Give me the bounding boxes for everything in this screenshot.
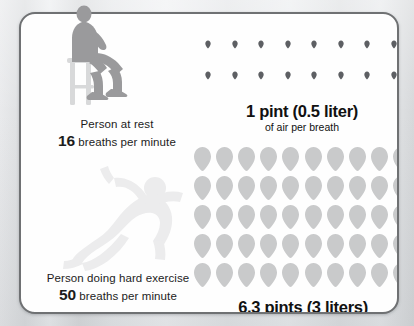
breath-dot-marker [205, 40, 211, 49]
volume-rest-main: 1 pint (0.5 liter) [199, 102, 397, 120]
breath-dot-marker [391, 71, 397, 80]
volume-exercise-main: 6.3 pints (3 liters) [197, 298, 397, 312]
caption-person-exercising: Person doing hard exercise 50 breaths pe… [23, 272, 213, 304]
balloon-marker [348, 262, 367, 289]
balloon-marker [237, 262, 256, 289]
breath-dot-marker [364, 71, 370, 80]
balloon-marker [326, 146, 345, 173]
balloon-marker [304, 262, 323, 289]
balloon-marker [259, 262, 278, 289]
caption-exercise-title: Person doing hard exercise [23, 272, 213, 286]
balloon-marker [215, 233, 234, 260]
balloon-marker [370, 146, 389, 173]
balloon-marker [326, 233, 345, 260]
breath-dot-marker [311, 71, 317, 80]
balloon-marker [281, 175, 300, 202]
balloon-marker [304, 204, 323, 231]
breath-dot-marker [258, 40, 264, 49]
infographic-panel: Person at rest 16 breaths per minute Per… [19, 12, 399, 314]
breath-dot-marker [285, 71, 291, 80]
balloon-marker [326, 262, 345, 289]
balloon-marker [281, 262, 300, 289]
volume-rest-sub: of air per breath [199, 121, 397, 134]
balloon-marker [215, 175, 234, 202]
balloon-marker [259, 175, 278, 202]
caption-rest-title: Person at rest [27, 118, 207, 132]
breath-dot-marker [364, 40, 370, 49]
balloon-marker [348, 146, 367, 173]
breath-dot-marker [258, 71, 264, 80]
balloon-marker [281, 146, 300, 173]
balloon-marker [370, 175, 389, 202]
balloon-marker [370, 262, 389, 289]
balloon-marker [215, 146, 234, 173]
balloon-marker [304, 146, 323, 173]
breath-dot-marker [338, 71, 344, 80]
balloon-marker [237, 175, 256, 202]
balloon-marker [304, 233, 323, 260]
balloon-marker [370, 204, 389, 231]
panel-inner-clip: Person at rest 16 breaths per minute Per… [21, 14, 397, 312]
caption-exercise-units: breaths per minute [76, 290, 177, 302]
balloon-marker [326, 175, 345, 202]
caption-person-at-rest: Person at rest 16 breaths per minute [27, 118, 207, 150]
balloon-marker [392, 204, 397, 231]
caption-rest-units: breaths per minute [75, 136, 176, 148]
breath-dot-marker [232, 71, 238, 80]
balloon-marker [348, 204, 367, 231]
breath-dot-marker [311, 40, 317, 49]
balloon-marker [392, 262, 397, 289]
balloon-marker [348, 233, 367, 260]
breath-dot-marker [391, 40, 397, 49]
balloon-marker [259, 204, 278, 231]
balloon-marker [193, 233, 212, 260]
balloon-marker [215, 204, 234, 231]
balloon-marker [215, 262, 234, 289]
balloon-marker [326, 204, 345, 231]
balloon-marker [259, 146, 278, 173]
breath-dot-marker [232, 40, 238, 49]
dot-grid-rest [195, 40, 397, 80]
balloon-marker [237, 233, 256, 260]
balloon-grid-exercise [191, 146, 397, 289]
balloon-marker [304, 175, 323, 202]
volume-label-rest: 1 pint (0.5 liter) of air per breath [199, 102, 397, 134]
caption-rest-rate: 16 breaths per minute [27, 132, 207, 150]
balloon-marker [281, 204, 300, 231]
balloon-marker [193, 175, 212, 202]
caption-rest-number: 16 [58, 132, 75, 149]
balloon-marker [193, 146, 212, 173]
person-sprinting-silhouette [59, 162, 189, 274]
breath-dot-marker [205, 71, 211, 80]
breath-dot-marker [285, 40, 291, 49]
balloon-marker [237, 146, 256, 173]
breath-dot-marker [338, 40, 344, 49]
volume-label-exercise: 6.3 pints (3 liters) of air per breath [197, 298, 397, 312]
balloon-marker [392, 146, 397, 173]
balloon-marker [392, 175, 397, 202]
caption-exercise-number: 50 [59, 286, 76, 303]
balloon-marker [281, 233, 300, 260]
balloon-marker [259, 233, 278, 260]
balloon-marker [370, 233, 389, 260]
balloon-marker [237, 204, 256, 231]
balloon-marker [193, 204, 212, 231]
balloon-marker [392, 233, 397, 260]
caption-exercise-rate: 50 breaths per minute [23, 286, 213, 304]
balloon-marker [348, 175, 367, 202]
